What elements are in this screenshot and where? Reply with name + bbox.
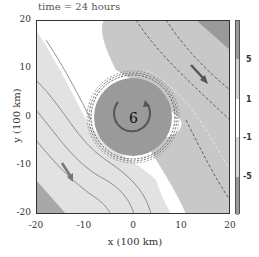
x-tick: -10 — [72, 220, 96, 230]
y-tick: -10 — [3, 159, 31, 169]
x-tick: 0 — [121, 220, 145, 230]
y-axis-label: y (100 km) — [11, 86, 22, 146]
colorbar — [235, 20, 240, 214]
vortex-symbol: 6 — [129, 110, 138, 126]
y-tick: 20 — [3, 14, 31, 24]
colorbar-tick-1: 1 — [246, 95, 252, 104]
colorbar-tick-neg5: -5 — [243, 172, 252, 181]
x-tick: 10 — [169, 220, 193, 230]
chart-title: time = 24 hours — [38, 1, 120, 12]
x-tick: -20 — [24, 220, 48, 230]
x-tick: 20 — [218, 220, 242, 230]
colorbar-tick-5: 5 — [246, 55, 252, 64]
x-axis-label: x (100 km) — [100, 236, 170, 247]
y-tick: -20 — [3, 207, 31, 217]
colorbar-tick-neg1: -1 — [243, 133, 252, 142]
contour-plot-area: 6 — [36, 20, 230, 214]
y-tick: 10 — [3, 62, 31, 72]
